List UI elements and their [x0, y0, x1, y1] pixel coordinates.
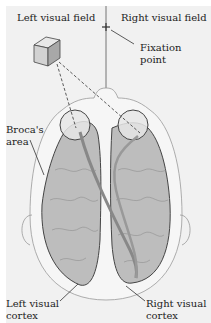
- fixation-leader-line: [111, 30, 134, 44]
- right-visual-cortex-label-line1: Right visual: [146, 298, 206, 309]
- broca-label-line2: area: [6, 136, 29, 147]
- right-visual-cortex-label-line2: cortex: [146, 310, 178, 321]
- right-visual-field-label: Right visual field: [121, 12, 207, 23]
- left-eye: [60, 110, 90, 140]
- left-visual-cortex-label-line1: Left visual: [6, 298, 59, 309]
- diagram-canvas: Left visual field Right visual field Fix…: [0, 0, 211, 323]
- fixation-label-line1: Fixation: [140, 42, 181, 53]
- fixation-label-line2: point: [140, 54, 166, 65]
- fixation-cross-icon: [102, 23, 110, 31]
- left-visual-field-label: Left visual field: [17, 12, 95, 23]
- broca-label-line1: Broca's: [6, 124, 44, 135]
- cube-icon: [34, 37, 60, 66]
- right-eye: [118, 110, 148, 140]
- left-visual-cortex-label-line2: cortex: [6, 310, 38, 321]
